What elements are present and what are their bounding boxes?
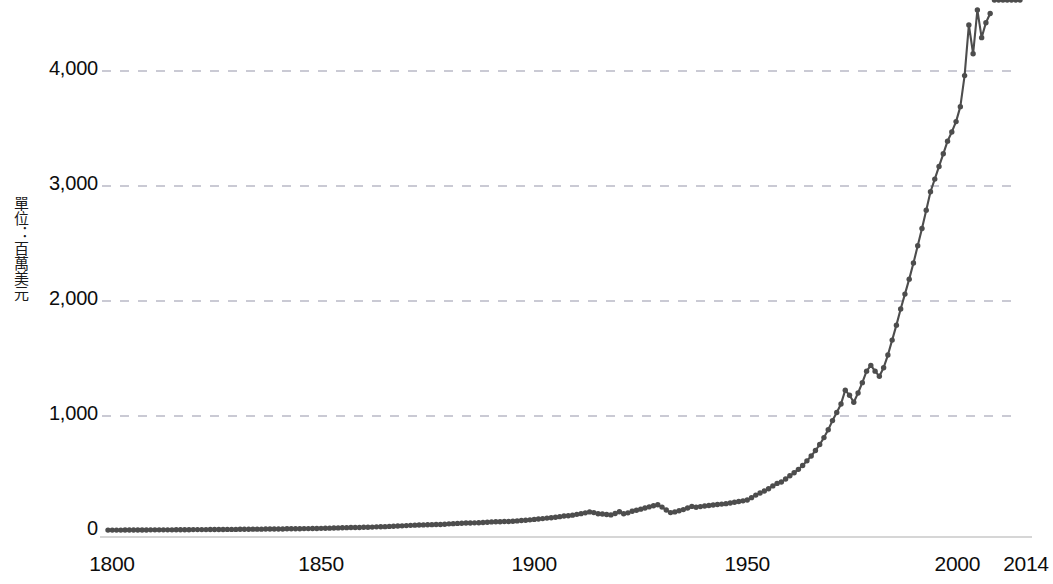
- data-point-marker: [970, 51, 975, 56]
- data-point-marker: [919, 226, 924, 231]
- data-point-marker: [838, 401, 843, 406]
- data-point-marker: [941, 151, 946, 156]
- data-point-marker: [945, 138, 950, 143]
- data-point-marker: [864, 368, 869, 373]
- data-point-marker: [894, 322, 899, 327]
- data-series-line: [108, 10, 990, 530]
- series-path: [108, 10, 990, 530]
- data-point-marker: [843, 387, 848, 392]
- data-point-marker: [979, 35, 984, 40]
- data-point-marker: [860, 380, 865, 385]
- data-point-marker: [791, 470, 796, 475]
- data-point-marker: [872, 368, 877, 373]
- data-point-marker: [962, 73, 967, 78]
- data-point-marker: [987, 11, 992, 16]
- data-point-marker: [821, 435, 826, 440]
- data-point-marker: [847, 393, 852, 398]
- data-point-marker: [936, 164, 941, 169]
- data-point-marker: [902, 291, 907, 296]
- data-point-marker: [868, 363, 873, 368]
- data-point-marker: [975, 7, 980, 12]
- data-point-marker: [877, 374, 882, 379]
- data-point-marker: [915, 243, 920, 248]
- gridlines: [102, 71, 1020, 416]
- data-point-marker: [783, 476, 788, 481]
- data-point-marker: [826, 427, 831, 432]
- data-point-marker: [851, 400, 856, 405]
- data-point-marker: [817, 442, 822, 447]
- data-point-marker: [855, 390, 860, 395]
- data-point-marker: [911, 260, 916, 265]
- data-point-marker: [813, 448, 818, 453]
- data-point-marker: [804, 458, 809, 463]
- data-point-marker: [928, 189, 933, 194]
- data-point-marker: [796, 467, 801, 472]
- data-point-marker: [885, 352, 890, 357]
- data-point-marker: [932, 176, 937, 181]
- data-point-marker: [834, 410, 839, 415]
- data-series-markers: [105, 0, 1022, 533]
- data-point-marker: [983, 20, 988, 25]
- data-point-marker: [808, 453, 813, 458]
- data-point-marker: [800, 463, 805, 468]
- data-point-marker: [889, 337, 894, 342]
- data-point-marker: [1017, 0, 1022, 3]
- data-point-marker: [924, 207, 929, 212]
- data-point-marker: [966, 22, 971, 27]
- data-point-marker: [953, 119, 958, 124]
- data-point-marker: [830, 418, 835, 423]
- data-point-marker: [949, 129, 954, 134]
- data-point-marker: [907, 276, 912, 281]
- data-point-marker: [958, 104, 963, 109]
- data-point-marker: [898, 306, 903, 311]
- data-point-marker: [881, 365, 886, 370]
